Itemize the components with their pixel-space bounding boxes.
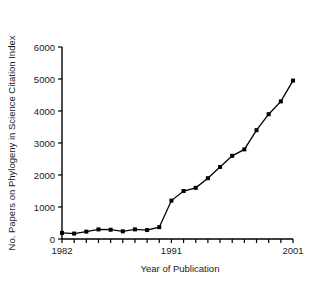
x-tick-label: 2001 <box>282 245 303 256</box>
x-axis-title: Year of Publication <box>141 263 220 274</box>
x-tick-label: 1982 <box>51 245 72 256</box>
y-tick-label: 1000 <box>34 202 55 213</box>
y-tick-label: 6000 <box>34 42 55 53</box>
data-point <box>206 176 210 180</box>
data-point <box>60 231 64 235</box>
data-point <box>84 230 88 234</box>
y-tick-label: 4000 <box>34 106 55 117</box>
data-point <box>109 228 113 232</box>
data-point <box>291 79 295 83</box>
y-tick-label: 2000 <box>34 170 55 181</box>
data-point <box>157 225 161 229</box>
chart-page: 0100020003000400050006000 198219912001 Y… <box>0 0 319 285</box>
line-chart: 0100020003000400050006000 198219912001 Y… <box>0 0 319 285</box>
data-point <box>267 112 271 116</box>
data-point <box>242 147 246 151</box>
data-point <box>96 227 100 231</box>
x-tick-label: 1991 <box>161 245 182 256</box>
data-point <box>145 228 149 232</box>
y-tick-label: 5000 <box>34 74 55 85</box>
data-point <box>182 189 186 193</box>
data-point <box>279 99 283 103</box>
data-point <box>218 165 222 169</box>
y-tick-label: 0 <box>50 234 55 245</box>
data-point <box>194 186 198 190</box>
y-axis-title: No. Papers on Phylogeny in Science Citat… <box>6 35 17 250</box>
data-point <box>255 128 259 132</box>
data-point <box>169 199 173 203</box>
data-point <box>121 229 125 233</box>
data-point <box>133 227 137 231</box>
y-tick-label: 3000 <box>34 138 55 149</box>
data-point <box>72 232 76 236</box>
data-point <box>230 154 234 158</box>
